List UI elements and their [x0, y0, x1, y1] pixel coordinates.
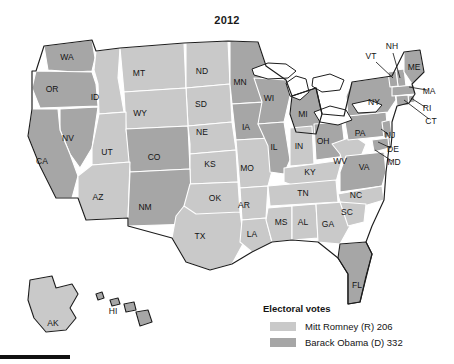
- state-mt: [120, 43, 186, 92]
- legend-title: Electoral votes: [263, 303, 454, 314]
- state-label-de: DE: [387, 144, 399, 154]
- legend-item-romney: Mitt Romney (R) 206: [263, 319, 454, 333]
- state-co: [126, 126, 190, 172]
- state-label-ct: CT: [425, 116, 436, 126]
- state-label-wi: WI: [264, 93, 274, 103]
- state-label-fl: FL: [352, 280, 362, 290]
- state-label-ky: KY: [304, 167, 316, 177]
- state-label-ri: RI: [423, 103, 432, 113]
- state-label-va: VA: [359, 162, 370, 172]
- leader-line-vt: [376, 62, 393, 78]
- state-label-ak: AK: [47, 318, 59, 328]
- state-or: [32, 71, 98, 108]
- state-nd: [186, 41, 230, 88]
- state-label-wv: WV: [333, 156, 347, 166]
- electoral-map-figure: 2012 WAORIDMTNDSDWYNVUTCACONEKSAZNMTXOKM…: [0, 0, 454, 364]
- legend-label-obama: Barack Obama (D) 332: [305, 337, 403, 348]
- state-label-mi: MI: [298, 109, 307, 119]
- state-label-sc: SC: [341, 207, 353, 217]
- state-label-co: CO: [148, 152, 161, 162]
- state-label-me: ME: [408, 62, 421, 72]
- us-electoral-map-svg: WAORIDMTNDSDWYNVUTCACONEKSAZNMTXOKMNIAMO…: [0, 26, 454, 336]
- state-label-al: AL: [298, 217, 309, 227]
- state-label-ca: CA: [36, 156, 48, 166]
- state-label-nv: NV: [62, 133, 74, 143]
- state-label-nc: NC: [350, 190, 362, 200]
- state-label-nh: NH: [386, 41, 398, 51]
- legend-swatch-obama: [270, 338, 296, 347]
- state-label-mt: MT: [133, 68, 145, 78]
- state-az: [78, 162, 130, 220]
- state-label-ia: IA: [242, 122, 250, 132]
- state-label-hi: HI: [109, 306, 118, 316]
- state-label-tx: TX: [195, 231, 206, 241]
- state-label-az: AZ: [93, 192, 104, 202]
- state-label-wa: WA: [60, 52, 74, 62]
- state-sd: [186, 84, 232, 126]
- state-label-sd: SD: [195, 99, 207, 109]
- state-label-ga: GA: [322, 219, 335, 229]
- legend-label-romney: Mitt Romney (R) 206: [305, 321, 393, 332]
- state-label-vt: VT: [366, 51, 377, 61]
- state-label-ks: KS: [204, 159, 216, 169]
- state-label-nd: ND: [196, 66, 208, 76]
- state-label-or: OR: [46, 84, 59, 94]
- state-label-nj: NJ: [385, 130, 395, 140]
- state-hi: [96, 292, 152, 326]
- legend-swatch-romney: [270, 322, 296, 331]
- state-label-wy: WY: [133, 108, 147, 118]
- state-label-pa: PA: [355, 128, 366, 138]
- state-label-ma: MA: [423, 86, 436, 96]
- state-label-ar: AR: [238, 200, 250, 210]
- legend: Electoral votes Mitt Romney (R) 206 Bara…: [263, 303, 454, 351]
- state-label-oh: OH: [317, 136, 330, 146]
- state-label-ms: MS: [275, 217, 288, 227]
- state-label-in: IN: [295, 141, 304, 151]
- state-id: [94, 48, 124, 114]
- states-layer: [28, 40, 424, 332]
- state-label-il: IL: [270, 142, 277, 152]
- state-label-mn: MN: [233, 77, 246, 87]
- state-label-la: LA: [247, 229, 258, 239]
- state-label-md: MD: [387, 157, 400, 167]
- state-label-ny: NY: [368, 97, 380, 107]
- state-tx: [172, 206, 244, 270]
- state-ma: [392, 85, 415, 96]
- state-label-ok: OK: [209, 193, 222, 203]
- chart-title: 2012: [0, 14, 454, 26]
- footer-rule: [0, 355, 70, 359]
- state-label-ne: NE: [196, 127, 208, 137]
- legend-item-obama: Barack Obama (D) 332: [263, 335, 454, 349]
- state-label-id: ID: [91, 92, 100, 102]
- state-label-tn: TN: [297, 188, 308, 198]
- state-label-nm: NM: [138, 202, 151, 212]
- map-canvas: WAORIDMTNDSDWYNVUTCACONEKSAZNMTXOKMNIAMO…: [0, 26, 454, 336]
- state-label-ut: UT: [101, 147, 112, 157]
- state-label-mo: MO: [240, 163, 254, 173]
